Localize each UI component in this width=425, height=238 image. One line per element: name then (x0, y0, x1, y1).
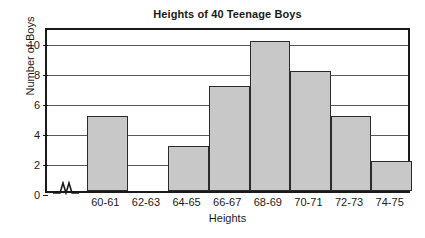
x-tick-label: 70-71 (288, 196, 329, 208)
x-tick-label: 74-75 (369, 196, 410, 208)
x-axis-title: Heights (45, 212, 410, 224)
x-tick-label: 72-73 (329, 196, 370, 208)
y-tick-mark (43, 105, 48, 106)
histogram-chart: Heights of 40 Teenage Boys Number of Boy… (0, 0, 425, 238)
axis-break-icon (53, 181, 79, 195)
y-tick-mark (43, 75, 48, 76)
y-axis-title: Number of Boys (22, 0, 38, 131)
y-tick-label: 6 (34, 99, 40, 111)
y-tick-mark (43, 195, 48, 196)
y-axis-ticks: 0246810 (47, 30, 408, 191)
x-tick-label: 62-63 (126, 196, 167, 208)
y-tick-mark (43, 45, 48, 46)
y-tick-mark (43, 135, 48, 136)
x-tick-label: 60-61 (85, 196, 126, 208)
y-tick-mark (43, 165, 48, 166)
y-tick-label: 2 (34, 159, 40, 171)
y-tick-label: 4 (34, 129, 40, 141)
x-tick-label: 68-69 (248, 196, 289, 208)
x-tick-label: 66-67 (207, 196, 248, 208)
x-tick-label: 64-65 (166, 196, 207, 208)
y-tick-label: 8 (34, 69, 40, 81)
plot-area: 0246810 (45, 28, 410, 193)
y-tick-label: 10 (28, 39, 40, 51)
chart-title: Heights of 40 Teenage Boys (45, 8, 410, 20)
y-tick-label: 0 (34, 189, 40, 201)
